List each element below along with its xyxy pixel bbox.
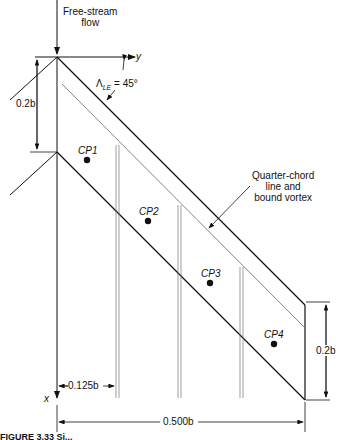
root-chord-dimension: 0.2b (16, 98, 35, 109)
y-axis-label: y (136, 51, 141, 62)
control-point-3 (207, 280, 213, 286)
control-point-1 (84, 157, 90, 163)
tip-chord-dimension: 0.2b (316, 345, 335, 356)
quarter-chord-line (62, 84, 305, 328)
control-point-4 (271, 341, 277, 347)
cp4-label: CP4 (264, 329, 283, 340)
sweep-angle-label: ΛLE = 45° (96, 78, 138, 93)
semispan-dimension: 0.500b (163, 416, 194, 427)
figure-caption: FIGURE 3.33 Si... (0, 432, 73, 440)
panel-width-dimension: 0.125b (68, 380, 99, 391)
cp2-label: CP2 (139, 206, 158, 217)
free-stream-label: Free-stream flow (63, 6, 117, 28)
wing-planform-diagram (0, 0, 348, 440)
cp1-label: CP1 (78, 145, 97, 156)
panel-boundaries (116, 145, 243, 398)
control-point-2 (145, 218, 151, 224)
quarter-chord-label: Quarter-chord line and bound vortex (252, 170, 314, 203)
x-axis-label: x (44, 393, 49, 404)
cp3-label: CP3 (201, 268, 220, 279)
